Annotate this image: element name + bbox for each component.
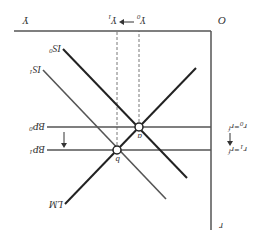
x-axis-label: Y — [21, 15, 29, 27]
r0-label: r0=rf — [227, 120, 247, 133]
is0-curve — [63, 49, 187, 178]
bp-shift-arrow — [61, 132, 67, 148]
lm-label: LM — [48, 199, 64, 210]
y-axis-label: r — [219, 221, 223, 232]
is1-curve — [43, 70, 166, 199]
bp1-label: BP1 — [29, 144, 45, 156]
point-b — [113, 146, 121, 154]
is-lm-bp-diagram: O Y r Y0 Y1 r0=rf r1=rf IS0 IS1 LM BP0 B… — [0, 0, 253, 239]
diagram-canvas: O Y r Y0 Y1 r0=rf r1=rf IS0 IS1 LM BP0 B… — [0, 0, 253, 239]
y0-label: Y0 — [136, 13, 146, 26]
y1-label: Y1 — [108, 13, 117, 26]
point-a — [135, 123, 143, 131]
point-b-label: b — [115, 155, 120, 165]
is0-label: IS0 — [49, 43, 62, 55]
bp0-label: BP0 — [29, 121, 45, 133]
point-a-label: a — [137, 132, 142, 142]
lm-curve — [65, 68, 196, 204]
origin-label: O — [218, 15, 226, 27]
is1-label: IS1 — [29, 64, 42, 76]
income-shift-arrow — [119, 19, 134, 25]
rate-shift-arrow — [227, 133, 233, 146]
